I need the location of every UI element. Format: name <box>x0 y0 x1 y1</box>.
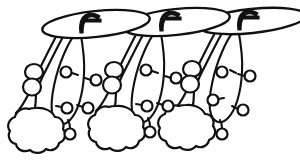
bead-lower-right <box>181 76 199 93</box>
circle-stem <box>136 104 142 105</box>
bead-lower-left <box>23 79 41 96</box>
small-circle-right-2 <box>245 71 256 82</box>
small-circle-left-2 <box>91 75 102 86</box>
figure-root: Line drawing of three repeating stalked … <box>0 0 300 160</box>
small-circle-middle-3 <box>142 101 153 112</box>
small-circle-left-4 <box>83 103 94 114</box>
small-circle-middle-1 <box>141 65 152 76</box>
small-circle-right-1 <box>217 67 228 78</box>
small-circle-right-4 <box>238 105 249 116</box>
small-circle-left-1 <box>61 67 72 78</box>
small-circle-middle-2 <box>171 73 182 84</box>
small-circle-middle-5 <box>145 127 156 138</box>
small-circle-right-3 <box>208 95 219 106</box>
small-circle-left-3 <box>62 103 73 114</box>
bead-lower-middle <box>103 77 121 94</box>
circle-stem <box>218 98 224 99</box>
circle-stem <box>56 106 62 107</box>
small-circle-middle-4 <box>163 101 174 112</box>
small-circle-left-5 <box>65 129 76 140</box>
line-drawing-canvas <box>0 0 300 160</box>
small-circle-right-5 <box>217 129 228 140</box>
